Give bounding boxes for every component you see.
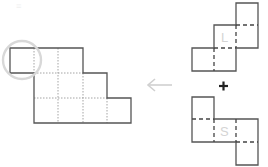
target-shape: [3, 41, 131, 123]
piece-s-label: S: [220, 124, 229, 139]
piece-s: S: [192, 97, 258, 165]
target-grid-lines: [34, 48, 107, 123]
target-outline: [10, 48, 131, 123]
piece-l-label: L: [221, 30, 228, 45]
diagram-canvas: ≡ L: [0, 0, 268, 167]
corner-mark: ≡: [16, 1, 21, 11]
arrow-left-icon: [148, 79, 172, 91]
plus-icon: [219, 82, 228, 91]
piece-l: L: [192, 3, 258, 71]
